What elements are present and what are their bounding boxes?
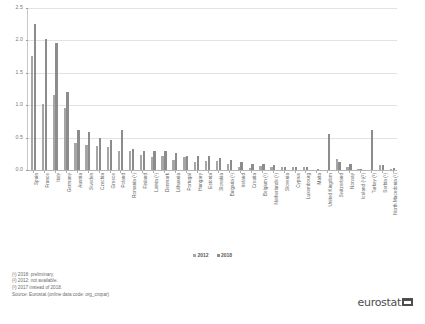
bar-group bbox=[300, 8, 311, 170]
x-tick-label: Iceland (¹)(²) bbox=[361, 173, 366, 199]
legend-swatch bbox=[217, 254, 220, 257]
bar-group bbox=[289, 8, 300, 170]
bar-2018 bbox=[197, 156, 199, 170]
x-tick-label: Turkey (³) bbox=[372, 173, 377, 193]
bar-group bbox=[376, 8, 387, 170]
bar-2018 bbox=[99, 138, 101, 170]
bar-group bbox=[61, 8, 72, 170]
bar-2018 bbox=[371, 130, 373, 170]
eurostat-logo: eurostat bbox=[358, 296, 413, 308]
bar-2018 bbox=[240, 162, 242, 170]
y-axis: 0.00.51.01.52.02.5 bbox=[0, 8, 26, 178]
y-tick-label: 1.5 bbox=[15, 70, 23, 75]
x-tick-label: Italy bbox=[56, 173, 61, 182]
bar-2018 bbox=[34, 24, 36, 170]
bar-group bbox=[344, 8, 355, 170]
x-tick-label: Norway bbox=[350, 173, 355, 189]
legend-item: 2018 bbox=[217, 252, 233, 259]
x-tick-label: France bbox=[45, 173, 50, 188]
bar-group bbox=[267, 8, 278, 170]
bar-group bbox=[72, 8, 83, 170]
bar-series-container bbox=[28, 8, 397, 170]
bar-group bbox=[104, 8, 115, 170]
chart-figure: 0.00.51.01.52.02.5 SpainFranceItalyGerma… bbox=[0, 0, 425, 324]
legend-swatch bbox=[193, 254, 196, 257]
bar-group bbox=[148, 8, 159, 170]
y-tick-label: 0.0 bbox=[15, 167, 23, 172]
x-tick-label: Malta bbox=[317, 173, 322, 184]
x-tick-label: Cyprus bbox=[296, 173, 301, 188]
x-tick-label: Poland bbox=[121, 173, 126, 188]
x-tick-label: Germany bbox=[67, 173, 72, 192]
x-tick-label: Spain bbox=[34, 173, 39, 185]
x-tick-label: Luxembourg bbox=[306, 173, 311, 199]
bar-group bbox=[169, 8, 180, 170]
x-tick-label: Estonia bbox=[208, 173, 213, 189]
bar-group bbox=[191, 8, 202, 170]
eurostat-logo-mark bbox=[402, 298, 413, 306]
footnotes-block: (¹) 2018: preliminary. (²) 2012: not ava… bbox=[12, 272, 312, 298]
y-tick-label: 0.5 bbox=[15, 135, 23, 140]
x-axis-labels: SpainFranceItalyGermanyAustriaSwedenCzec… bbox=[27, 171, 397, 251]
bar-group bbox=[126, 8, 137, 170]
bar-2018 bbox=[164, 151, 166, 170]
bar-group bbox=[202, 8, 213, 170]
bar-group bbox=[257, 8, 268, 170]
bar-2018 bbox=[219, 158, 221, 170]
x-tick-label: United Kingdom bbox=[328, 173, 333, 206]
bar-2018 bbox=[132, 149, 134, 170]
bar-group bbox=[159, 8, 170, 170]
bar-group bbox=[387, 8, 398, 170]
x-tick-label: Austria bbox=[78, 173, 83, 188]
bar-group bbox=[93, 8, 104, 170]
bar-2018 bbox=[66, 92, 68, 170]
bar-group bbox=[137, 8, 148, 170]
bar-group bbox=[322, 8, 333, 170]
bar-group bbox=[246, 8, 257, 170]
bar-group bbox=[235, 8, 246, 170]
x-tick-label: North Macedonia (¹) bbox=[393, 173, 398, 215]
footnote-3: (³) 2017 instead of 2018. bbox=[12, 285, 312, 291]
legend-label: 2012 bbox=[197, 252, 208, 259]
x-tick-label: Hungary bbox=[198, 173, 203, 191]
x-tick-label: Switzerland bbox=[339, 173, 344, 197]
bar-2018 bbox=[186, 156, 188, 170]
bar-group bbox=[365, 8, 376, 170]
bar-2018 bbox=[121, 130, 123, 170]
x-tick-label: Greece bbox=[111, 173, 116, 188]
x-tick-label: Belgium (¹) bbox=[263, 173, 268, 196]
bar-group bbox=[115, 8, 126, 170]
x-tick-label: Croatia bbox=[252, 173, 257, 188]
chart-legend: 20122018 bbox=[0, 252, 425, 259]
x-tick-label: Serbia (¹) bbox=[383, 173, 388, 193]
legend-item: 2012 bbox=[193, 252, 209, 259]
x-tick-label: Czechia bbox=[100, 173, 105, 190]
legend-label: 2018 bbox=[221, 252, 232, 259]
bar-2018 bbox=[55, 43, 57, 170]
bar-2018 bbox=[328, 134, 330, 170]
x-tick-label: Romania (¹) bbox=[132, 173, 137, 198]
bar-group bbox=[354, 8, 365, 170]
bar-2018 bbox=[208, 156, 210, 170]
bar-2018 bbox=[45, 39, 47, 170]
x-tick-label: Slovakia bbox=[219, 173, 224, 191]
bar-2018 bbox=[88, 132, 90, 170]
bar-group bbox=[333, 8, 344, 170]
bar-2018 bbox=[230, 160, 232, 170]
bar-2018 bbox=[338, 162, 340, 170]
x-tick-label: Lithuania bbox=[176, 173, 181, 192]
bar-group bbox=[213, 8, 224, 170]
x-tick-label: Finland bbox=[143, 173, 148, 188]
bar-2018 bbox=[110, 140, 112, 170]
bar-2018 bbox=[153, 151, 155, 170]
x-tick-label: Portugal bbox=[187, 173, 192, 191]
y-tick-label: 2.5 bbox=[15, 5, 23, 10]
y-tick-label: 1.0 bbox=[15, 103, 23, 108]
x-tick-label: Slovenia bbox=[285, 173, 290, 191]
bar-group bbox=[28, 8, 39, 170]
bar-2018 bbox=[175, 153, 177, 170]
x-tick-label: Ireland bbox=[241, 173, 246, 187]
bar-group bbox=[180, 8, 191, 170]
bar-group bbox=[278, 8, 289, 170]
bar-2018 bbox=[143, 151, 145, 170]
